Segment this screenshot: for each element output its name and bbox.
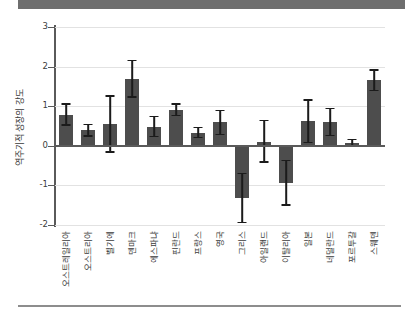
error-bar-cap-lower xyxy=(128,96,137,98)
error-bar-line xyxy=(307,100,309,142)
y-tick-mark xyxy=(48,106,54,107)
bar-group xyxy=(99,27,121,225)
x-tick-label: 에스파냐 xyxy=(150,231,159,263)
error-bar-cap-upper xyxy=(216,110,225,112)
top-banner xyxy=(18,0,405,9)
bar-group xyxy=(253,27,275,225)
y-tick-mark xyxy=(48,67,54,68)
error-bar-cap-lower xyxy=(216,134,225,136)
error-bar-cap-upper xyxy=(194,127,203,129)
chart-figure: 3210-1-2 역주기적 성장의 강도 오스트레일리아오스트리아벨기에덴마크에… xyxy=(0,9,405,305)
x-tick-label: 그리스 xyxy=(238,231,247,255)
x-tick-label-slot: 덴마크 xyxy=(121,229,143,305)
error-bar-cap-lower xyxy=(326,135,335,137)
error-bar-line xyxy=(263,120,265,162)
x-tick-label: 오스트리아 xyxy=(84,231,93,271)
x-tick-label-slot: 일본 xyxy=(297,229,319,305)
x-tick-label: 핀란드 xyxy=(172,231,181,255)
x-tick-label: 영국 xyxy=(216,231,225,247)
bar-group xyxy=(297,27,319,225)
bar-group xyxy=(231,27,253,225)
plot-area xyxy=(55,27,385,225)
bar-group xyxy=(363,27,385,225)
error-bar-cap-lower xyxy=(106,151,115,153)
bar-group xyxy=(55,27,77,225)
x-tick-label: 덴마크 xyxy=(128,231,137,255)
error-bar-cap-lower xyxy=(260,161,269,163)
y-tick-label: -1 xyxy=(24,180,48,189)
error-bar-line xyxy=(241,174,243,223)
error-bar-cap-lower xyxy=(238,222,247,224)
y-tick-label: -2 xyxy=(24,220,48,229)
error-bar-cap-lower xyxy=(194,137,203,139)
x-tick-label-slot: 핀란드 xyxy=(165,229,187,305)
bottom-rule xyxy=(18,305,401,307)
gridline xyxy=(55,225,385,226)
x-tick-label: 오스트레일리아 xyxy=(62,231,71,287)
error-bar-cap-upper xyxy=(326,108,335,110)
bar-group xyxy=(165,27,187,225)
error-bar-line xyxy=(131,61,133,97)
error-bar-cap-upper xyxy=(282,160,291,162)
y-tick-mark xyxy=(48,27,54,28)
bar-group xyxy=(275,27,297,225)
error-bar-cap-upper xyxy=(348,139,357,141)
x-tick-label: 프랑스 xyxy=(194,231,203,255)
error-bar-cap-lower xyxy=(84,135,93,137)
x-tick-label: 포르투갈 xyxy=(348,231,357,263)
bar-group xyxy=(341,27,363,225)
error-bar-cap-lower xyxy=(282,204,291,206)
error-bar-cap-upper xyxy=(106,95,115,97)
bar-group xyxy=(77,27,99,225)
x-tick-label-slot: 에스파냐 xyxy=(143,229,165,305)
y-tick-mark xyxy=(48,146,54,147)
y-tick-label: 2 xyxy=(24,62,48,71)
error-bar-cap-lower xyxy=(172,115,181,117)
error-bar-line xyxy=(153,116,155,136)
x-tick-label: 아일랜드 xyxy=(260,231,269,263)
x-tick-label-slot: 그리스 xyxy=(231,229,253,305)
y-tick-label: 0 xyxy=(24,141,48,150)
bar-group xyxy=(187,27,209,225)
y-tick-label: 1 xyxy=(24,101,48,110)
x-axis-tick-labels: 오스트레일리아오스트리아벨기에덴마크에스파냐핀란드프랑스영국그리스아일랜드이탈리… xyxy=(55,229,385,305)
error-bar-cap-upper xyxy=(150,116,159,118)
error-bar-cap-upper xyxy=(370,69,379,71)
y-tick-mark xyxy=(48,185,54,186)
error-bar-line xyxy=(109,96,111,152)
error-bar-cap-lower xyxy=(304,142,313,144)
error-bar-line xyxy=(373,70,375,90)
x-tick-label: 네덜란드 xyxy=(326,231,335,263)
x-tick-label-slot: 아일랜드 xyxy=(253,229,275,305)
x-tick-label-slot: 이탈리아 xyxy=(275,229,297,305)
x-tick-label-slot: 스웨덴 xyxy=(363,229,385,305)
x-tick-label: 스웨덴 xyxy=(370,231,379,255)
error-bar-cap-lower xyxy=(150,136,159,138)
error-bar-cap-upper xyxy=(84,124,93,126)
error-bar-cap-upper xyxy=(304,99,313,101)
x-tick-label: 이탈리아 xyxy=(282,231,291,263)
bar-group xyxy=(121,27,143,225)
error-bar-line xyxy=(285,160,287,205)
error-bar-cap-upper xyxy=(128,60,137,62)
bar-group xyxy=(319,27,341,225)
error-bar-cap-upper xyxy=(238,173,247,175)
x-tick-label: 벨기에 xyxy=(106,231,115,255)
x-tick-label-slot: 벨기에 xyxy=(99,229,121,305)
x-tick-label-slot: 오스트레일리아 xyxy=(55,229,77,305)
error-bar-cap-upper xyxy=(172,103,181,105)
error-bar-cap-upper xyxy=(62,103,71,105)
error-bar-line xyxy=(65,104,67,125)
y-axis-title: 역주기적 성장의 강도 xyxy=(13,73,26,183)
error-bar-cap-upper xyxy=(260,120,269,122)
error-bar-line xyxy=(219,111,221,135)
bar-group xyxy=(209,27,231,225)
x-tick-label-slot: 네덜란드 xyxy=(319,229,341,305)
y-tick-mark xyxy=(48,225,54,226)
x-tick-label-slot: 프랑스 xyxy=(187,229,209,305)
error-bar-line xyxy=(329,109,331,136)
error-bar-cap-lower xyxy=(370,90,379,92)
x-tick-label-slot: 영국 xyxy=(209,229,231,305)
error-bar-cap-lower xyxy=(62,124,71,126)
x-tick-label-slot: 포르투갈 xyxy=(341,229,363,305)
